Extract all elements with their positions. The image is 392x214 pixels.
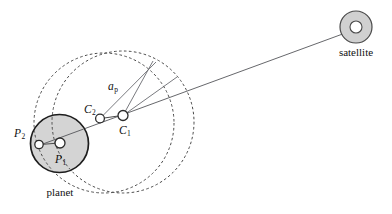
node-p1-marker: [55, 138, 65, 148]
label-c1-subscript: 1: [127, 129, 131, 138]
label-semi-major-axis-ap: ap: [108, 80, 118, 94]
orbital-diagram: planet satellite P1 P2 C1 C2 ap: [0, 0, 392, 214]
label-p2-base: P: [13, 127, 21, 139]
label-c2-base: C: [84, 103, 92, 115]
label-p2-subscript: 2: [21, 132, 25, 141]
figure-root: planet satellite P1 P2 C1 C2 ap: [0, 0, 392, 214]
label-p2: P2: [13, 127, 25, 141]
node-p2-marker: [35, 140, 43, 148]
satellite-label: satellite: [339, 46, 373, 58]
label-c1-base: C: [119, 124, 127, 136]
label-c2-subscript: 2: [92, 108, 96, 117]
label-ap-subscript: p: [114, 85, 118, 94]
satellite-core: [350, 21, 362, 33]
node-c2-marker: [96, 114, 105, 123]
node-c1-marker: [118, 111, 128, 121]
label-c1: C1: [119, 124, 131, 138]
label-c2: C2: [84, 103, 96, 117]
label-p1-base: P: [54, 153, 62, 165]
label-ap-base: a: [108, 80, 114, 92]
radius-line-c1-upper: [123, 61, 153, 116]
label-p1-subscript: 1: [62, 158, 66, 167]
planet-label: planet: [47, 186, 74, 198]
